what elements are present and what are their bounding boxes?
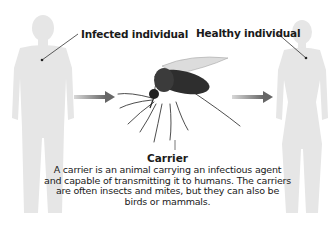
description-line: A carrier is an animal carrying an infec… bbox=[0, 165, 335, 176]
description-line: are often insects and mites, but they ca… bbox=[0, 186, 335, 197]
description-line: birds or mammals. bbox=[0, 197, 335, 208]
carrier-title: Carrier bbox=[0, 152, 335, 164]
infected-individual-label: Infected individual bbox=[81, 28, 188, 40]
carrier-description: A carrier is an animal carrying an infec… bbox=[0, 165, 335, 207]
healthy-individual-label: Healthy individual bbox=[196, 27, 300, 39]
mosquito-carrier-icon bbox=[110, 50, 260, 150]
